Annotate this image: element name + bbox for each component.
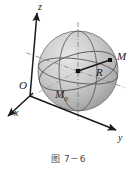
axis-y-label: y bbox=[118, 133, 122, 143]
surface-point-label: M bbox=[117, 51, 126, 62]
axis-x-label: x bbox=[14, 108, 18, 118]
axis-x-line bbox=[8, 93, 33, 116]
sphere-center-subscript: 0 bbox=[64, 95, 68, 103]
sphere-center-letter: M bbox=[55, 88, 64, 100]
origin-label: O bbox=[19, 80, 27, 91]
sphere-coordinate-diagram bbox=[0, 0, 137, 150]
surface-point-marker bbox=[108, 58, 112, 62]
figure-caption: 图 7－6 bbox=[0, 152, 137, 165]
sphere-center-marker bbox=[76, 69, 80, 73]
radius-label: R bbox=[96, 67, 103, 78]
axis-z-label: z bbox=[38, 2, 42, 12]
axis-z-line bbox=[30, 13, 37, 96]
figure-container: z y x O M R M0 图 7－6 bbox=[0, 0, 137, 174]
sphere-center-label: M0 bbox=[55, 89, 68, 103]
